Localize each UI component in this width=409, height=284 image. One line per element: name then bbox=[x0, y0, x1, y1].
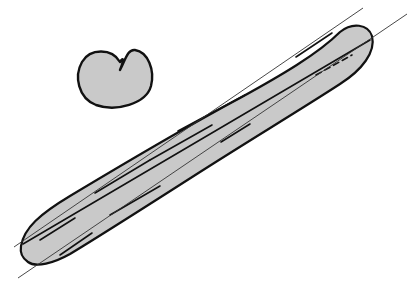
score-mark bbox=[23, 40, 370, 244]
baguette-shape bbox=[21, 26, 373, 265]
guide-line bbox=[18, 14, 407, 278]
round-roll bbox=[78, 50, 152, 108]
illustration-canvas: · · · bbox=[0, 0, 409, 284]
round-roll-shape bbox=[78, 50, 152, 108]
bread-illustration bbox=[0, 0, 409, 284]
guide-line bbox=[14, 8, 363, 247]
baguette bbox=[14, 8, 407, 278]
